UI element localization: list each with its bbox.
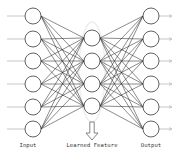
output-node-4	[143, 76, 159, 92]
output-node-3	[143, 53, 159, 69]
hidden-node-4	[84, 98, 100, 114]
hidden-node-2	[84, 53, 100, 69]
output-node-6	[143, 121, 159, 137]
input-node-1	[25, 8, 41, 24]
input-node-6	[25, 121, 41, 137]
input-node-3	[25, 53, 41, 69]
hidden-node-1	[84, 30, 100, 46]
input-node-4	[25, 76, 41, 92]
down-arrow-icon	[86, 122, 98, 140]
input-node-5	[25, 99, 41, 115]
hidden-node-3	[84, 76, 100, 92]
input-label: Input	[19, 142, 36, 148]
output-node-1	[143, 8, 159, 24]
output-node-5	[143, 99, 159, 115]
autoencoder-diagram	[0, 0, 184, 160]
nodes	[25, 8, 159, 137]
input-node-2	[25, 31, 41, 47]
learned-feature-label: Learned Feature	[66, 142, 117, 148]
output-label: Output	[141, 142, 161, 148]
output-node-2	[143, 31, 159, 47]
